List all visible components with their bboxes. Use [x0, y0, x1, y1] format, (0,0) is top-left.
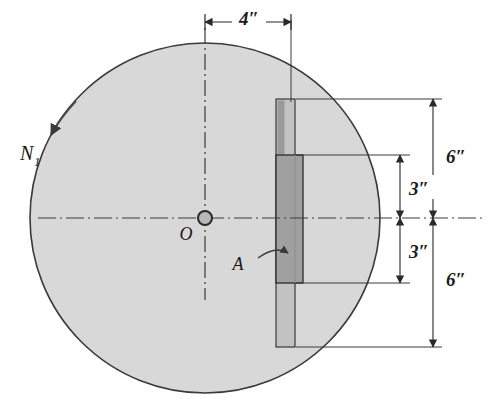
dim-label-4in: 4″ [238, 8, 259, 29]
area-a-label: A [232, 254, 245, 274]
center-label: O [180, 224, 193, 244]
dimension-lower-6in: 6″ [433, 218, 474, 347]
force-n1-label: N [19, 142, 35, 164]
dim-label-upper-6in: 6″ [446, 146, 466, 167]
area-a-rect [276, 155, 303, 283]
dimension-lower-3in: 3″ [400, 218, 436, 283]
dim-label-upper-3in: 3″ [408, 178, 429, 199]
engineering-figure: O N 1 A 4″ [0, 0, 496, 415]
force-n1-subscript: 1 [34, 154, 41, 169]
dim-label-lower-3in: 3″ [408, 241, 429, 262]
dimension-upper-6in: 6″ [433, 99, 474, 218]
dimension-upper-3in: 3″ [400, 155, 436, 218]
dim-label-lower-6in: 6″ [446, 269, 466, 290]
figure-canvas: O N 1 A 4″ [0, 0, 496, 415]
slot-upper-groove [278, 101, 285, 155]
center-circle [198, 211, 212, 225]
